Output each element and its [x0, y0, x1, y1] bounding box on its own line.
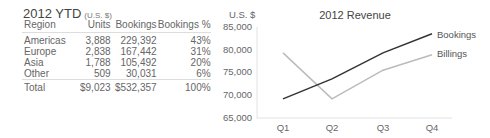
- y-tick-label: 75,000: [223, 66, 252, 77]
- y-axis-unit-label: U.S. $: [229, 9, 256, 20]
- x-tick-label: Q1: [277, 122, 290, 133]
- x-tick-label: Q4: [426, 122, 439, 133]
- y-tick-label: 85,000: [223, 21, 252, 32]
- y-axis: 85,000 80,000 75,000 70,000 65,000: [223, 21, 257, 123]
- x-tick-label: Q2: [326, 122, 339, 133]
- bookings-line: [283, 34, 432, 99]
- y-tick-label: 65,000: [223, 112, 252, 123]
- y-tick-label: 80,000: [223, 44, 252, 55]
- legend-bookings: Bookings: [437, 29, 476, 40]
- x-axis: Q1 Q2 Q3 Q4: [257, 118, 452, 133]
- y-tick-label: 70,000: [223, 89, 252, 100]
- legend-billings: Billings: [437, 48, 467, 59]
- chart-title: 2012 Revenue: [319, 9, 391, 21]
- revenue-line-chart: U.S. $ 2012 Revenue 85,000 80,000 75,000…: [0, 0, 490, 138]
- x-tick-label: Q3: [377, 122, 390, 133]
- billings-line: [283, 53, 432, 99]
